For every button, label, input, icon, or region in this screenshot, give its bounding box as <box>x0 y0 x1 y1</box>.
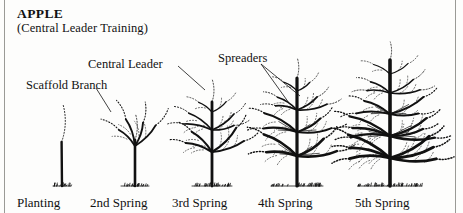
apple-central-leader-training-figure: APPLE (Central Leader Training) Central … <box>0 0 463 213</box>
stage-label-planting: Planting <box>17 195 60 211</box>
tree-illustrations <box>0 0 463 213</box>
stage-label-3rd-spring: 3rd Spring <box>172 195 227 211</box>
stage-label-2nd-spring: 2nd Spring <box>90 195 147 211</box>
stage-label-5th-spring: 5th Spring <box>355 195 410 211</box>
stage-label-row: Planting 2nd Spring 3rd Spring 4th Sprin… <box>0 195 463 213</box>
stage-label-4th-spring: 4th Spring <box>258 195 313 211</box>
callout-leader-lines <box>96 64 300 112</box>
